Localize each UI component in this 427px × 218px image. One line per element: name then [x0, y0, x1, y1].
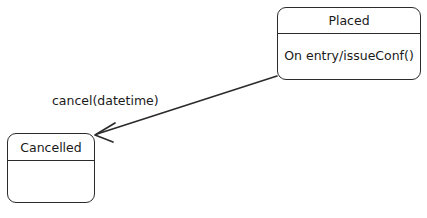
state-body-cancelled [8, 161, 94, 202]
state-title-placed: Placed [278, 8, 420, 33]
state-node-cancelled[interactable]: Cancelled [7, 133, 95, 203]
state-diagram-canvas: cancel(datetime) Placed On entry/issueCo… [0, 0, 427, 218]
transition-label-cancel: cancel(datetime) [52, 93, 159, 108]
transition-arrowhead-icon [95, 123, 115, 142]
state-node-placed[interactable]: Placed On entry/issueConf() [277, 7, 421, 80]
state-title-cancelled: Cancelled [8, 134, 94, 160]
state-body-placed: On entry/issueConf() [278, 34, 420, 79]
